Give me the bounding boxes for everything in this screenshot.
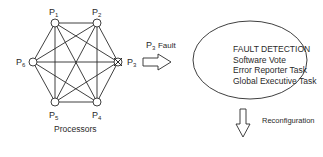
fault-detection-title: FAULT DETECTION [233,44,316,55]
node-p2 [93,19,101,27]
reconfiguration-label: Reconfiguration [262,116,315,126]
node-label-p5: P5 [49,110,58,123]
detection-item-software-vote: Software Vote [233,55,316,66]
fault-detection-text: FAULT DETECTION Software Vote Error Repo… [233,44,316,86]
fault-arrow-label: P3 Fault [146,40,176,53]
node-label-p2: P2 [92,7,101,20]
node-p4 [93,98,101,106]
node-p1 [51,19,59,27]
node-p5 [51,98,59,106]
processor-network-edges [33,23,118,102]
node-p6 [29,58,37,66]
processors-label: Processors [54,124,97,134]
fault-arrow-icon [143,54,171,70]
node-label-p3: P3 [127,57,136,70]
reconfiguration-arrow-icon [236,109,250,137]
node-label-p1: P1 [49,7,58,20]
detection-item-global-executive: Global Executive Task [233,76,316,87]
detection-item-error-reporter: Error Reporter Task [233,65,316,76]
node-label-p6: P6 [16,57,25,70]
node-label-p4: P4 [92,110,101,123]
